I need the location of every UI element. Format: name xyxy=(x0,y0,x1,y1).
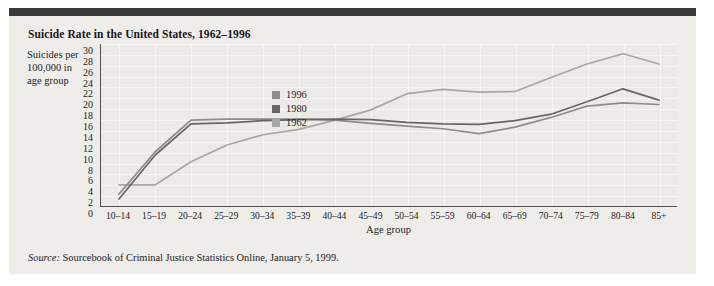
y-axis-tick-labels: 302826242220181614121086420 xyxy=(71,46,93,212)
series-line-1980 xyxy=(119,89,659,199)
x-axis-tick: 15–19 xyxy=(142,210,166,221)
x-axis-tick: 40–44 xyxy=(322,210,346,221)
source-text: Sourcebook of Criminal Justice Statistic… xyxy=(63,252,339,263)
legend-swatch-icon xyxy=(272,119,280,127)
legend-item-1980: 1980 xyxy=(272,102,307,115)
y-axis-tick: 12 xyxy=(83,144,93,154)
x-axis-tick: 10–14 xyxy=(106,210,130,221)
y-axis-tick: 28 xyxy=(83,57,93,67)
x-axis-tick: 45–49 xyxy=(358,210,382,221)
x-axis-tick: 60–64 xyxy=(467,210,491,221)
figure-panel: Suicide Rate in the United States, 1962–… xyxy=(9,8,696,274)
x-axis-tick: 85+ xyxy=(651,210,666,221)
decorative-top-bar xyxy=(9,8,696,16)
x-axis-label: Age group xyxy=(100,224,677,235)
y-axis-tick: 0 xyxy=(88,209,93,219)
y-axis-tick: 30 xyxy=(83,46,93,56)
x-axis-tick: 20–24 xyxy=(178,210,202,221)
x-axis-tick: 35–39 xyxy=(286,210,310,221)
y-axis-tick: 18 xyxy=(83,111,93,121)
series-lines xyxy=(101,44,677,206)
y-axis-tick: 6 xyxy=(88,176,93,186)
x-axis-tick: 25–29 xyxy=(214,210,238,221)
series-line-1996 xyxy=(119,103,659,194)
y-axis-tick: 22 xyxy=(83,89,93,99)
plot-area xyxy=(100,44,677,207)
chart-legend: 199619801962 xyxy=(272,88,307,130)
y-axis-tick: 26 xyxy=(83,68,93,78)
legend-item-1962: 1962 xyxy=(272,116,307,129)
x-axis-tick: 55–59 xyxy=(431,210,455,221)
x-axis-tick: 65–69 xyxy=(503,210,527,221)
legend-swatch-icon xyxy=(272,91,280,99)
x-axis-tick: 75–79 xyxy=(575,210,599,221)
y-axis-tick: 16 xyxy=(83,122,93,132)
y-axis-tick: 20 xyxy=(83,100,93,110)
source-note: Source: Sourcebook of Criminal Justice S… xyxy=(28,252,339,263)
y-axis-tick: 10 xyxy=(83,155,93,165)
x-axis-tick: 70–74 xyxy=(539,210,563,221)
y-axis-tick: 4 xyxy=(88,187,93,197)
chart-title: Suicide Rate in the United States, 1962–… xyxy=(28,28,251,40)
x-axis-tick: 80–84 xyxy=(611,210,635,221)
legend-label: 1996 xyxy=(286,90,307,100)
legend-item-1996: 1996 xyxy=(272,88,307,101)
y-axis-tick: 2 xyxy=(88,198,93,208)
y-axis-tick: 8 xyxy=(88,166,93,176)
x-axis-tick: 50–54 xyxy=(395,210,419,221)
legend-label: 1962 xyxy=(286,118,307,128)
y-axis-tick: 14 xyxy=(83,133,93,143)
x-axis-tick-labels: 10–1415–1920–2425–2930–3435–3940–4445–49… xyxy=(100,210,700,224)
x-axis-tick: 30–34 xyxy=(250,210,274,221)
legend-swatch-icon xyxy=(272,105,280,113)
legend-label: 1980 xyxy=(286,104,307,114)
source-prefix: Source: xyxy=(28,252,60,263)
y-axis-tick: 24 xyxy=(83,79,93,89)
